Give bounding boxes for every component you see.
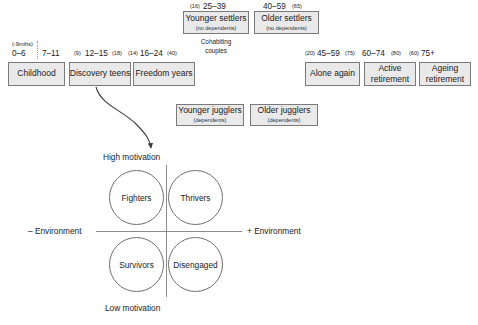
quadrant-top-label: High motivation — [103, 152, 160, 162]
alone-again-age-right: (75) — [345, 50, 355, 56]
box-older-settlers-subtitle: (no dependents) — [266, 25, 307, 31]
quadrant-circle-disengaged[interactable]: Disengaged — [168, 237, 223, 292]
quadrant-circle-disengaged-label: Disengaged — [173, 260, 217, 270]
box-ageing-retirement-title: Ageing retirement — [426, 63, 464, 84]
alone-again-age-left: (20) — [305, 50, 315, 56]
box-freedom-years[interactable]: Freedom years — [133, 62, 195, 86]
diagram-canvas: (16) 25–39 40–59 (65) Younger settlers (… — [0, 0, 478, 325]
box-childhood-title: Childhood — [17, 69, 55, 79]
quadrant-horizontal-axis — [96, 231, 242, 232]
box-younger-settlers-subtitle: (no dependents) — [196, 25, 237, 31]
teens-age-right: (18) — [112, 50, 122, 56]
freedom-age-range: 16–24 — [140, 49, 163, 58]
childhood-age-range: 0–6 — [12, 49, 26, 58]
box-older-settlers-title: Older settlers — [261, 14, 312, 24]
box-younger-jugglers-subtitle: (dependents) — [194, 117, 227, 123]
freedom-age-right: (40) — [167, 50, 177, 56]
quadrant-circle-thrivers[interactable]: Thrivers — [168, 170, 223, 225]
box-younger-settlers[interactable]: Younger settlers (no dependents) — [183, 11, 249, 34]
quadrant-bottom-label: Low motivation — [105, 303, 160, 313]
box-discovery-teens[interactable]: Discovery teens — [69, 62, 131, 86]
box-ageing-retirement[interactable]: Ageing retirement — [419, 62, 471, 86]
box-active-retirement[interactable]: Active retirement — [364, 62, 416, 86]
younger-settlers-age-range: 25–39 — [203, 2, 226, 11]
ageing-retirement-age-range: 75+ — [421, 49, 435, 58]
box-older-jugglers-title: Older jugglers — [258, 106, 311, 116]
box-younger-settlers-title: Younger settlers — [185, 14, 246, 24]
older-settlers-age-right: (65) — [292, 3, 302, 9]
curved-arrow — [96, 87, 151, 148]
box-discovery-teens-title: Discovery teens — [70, 69, 130, 79]
cohabiting-couples-caption: Cohabiting couples — [191, 38, 241, 55]
teens-age-range: 12–15 — [85, 49, 108, 58]
alone-again-age-range: 45–59 — [317, 49, 340, 58]
quadrant-circle-fighters-label: Fighters — [122, 193, 152, 203]
box-childhood[interactable]: Childhood — [8, 62, 65, 86]
box-active-retirement-title: Active retirement — [371, 63, 409, 84]
box-younger-jugglers[interactable]: Younger jugglers (dependents) — [176, 104, 244, 126]
box-older-jugglers-subtitle: (dependents) — [268, 117, 301, 123]
freedom-age-left: (14) — [128, 50, 138, 56]
active-retirement-age-range: 60–74 — [362, 49, 385, 58]
age-divider-1 — [37, 41, 38, 59]
quadrant-left-label: – Environment — [28, 226, 82, 236]
box-freedom-years-title: Freedom years — [135, 69, 192, 79]
active-retirement-age-right: (80) — [391, 50, 401, 56]
younger-settlers-age-left: (16) — [190, 3, 200, 9]
ageing-retirement-age-left: (60) — [409, 50, 419, 56]
box-younger-jugglers-title: Younger jugglers — [178, 106, 241, 116]
quadrant-circle-survivors[interactable]: Survivors — [109, 237, 164, 292]
quadrant-circle-survivors-label: Survivors — [119, 260, 154, 270]
quadrant-circle-thrivers-label: Thrivers — [181, 193, 211, 203]
teens-age-left: (9) — [74, 50, 81, 56]
box-older-settlers[interactable]: Older settlers (no dependents) — [254, 11, 319, 34]
quadrant-circle-fighters[interactable]: Fighters — [109, 170, 164, 225]
childhood-age-second: 7–11 — [42, 49, 60, 58]
box-alone-again-title: Alone again — [310, 69, 355, 79]
older-settlers-age-range: 40–59 — [263, 2, 286, 11]
prenatal-age-label: (-9mths) — [12, 41, 33, 47]
box-alone-again[interactable]: Alone again — [305, 62, 360, 86]
box-older-jugglers[interactable]: Older jugglers (dependents) — [250, 104, 318, 126]
quadrant-right-label: + Environment — [247, 226, 301, 236]
